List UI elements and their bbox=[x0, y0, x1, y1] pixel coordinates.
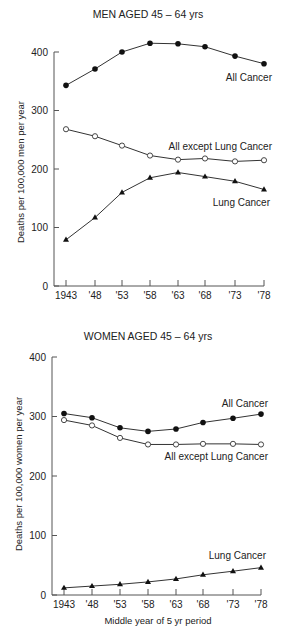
women-x-tick-label: '68 bbox=[196, 599, 209, 610]
filled-circle-marker-icon bbox=[202, 44, 208, 50]
women-label-lung-cancer: Lung Cancer bbox=[209, 550, 267, 561]
filled-circle-marker-icon bbox=[175, 41, 181, 47]
men-x-tick-label: '63 bbox=[171, 290, 184, 301]
open-circle-marker-icon bbox=[92, 134, 97, 139]
filled-triangle-marker-icon bbox=[63, 237, 69, 242]
men-chart-title: MEN AGED 45 – 64 yrs bbox=[93, 8, 203, 20]
women-y-tick-label: 300 bbox=[29, 411, 46, 422]
chart-canvas: MEN AGED 45 – 64 yrs Deaths per 100,000 … bbox=[0, 0, 283, 641]
open-circle-marker-icon bbox=[63, 127, 68, 132]
filled-circle-marker-icon bbox=[261, 61, 267, 67]
women-label-all-except-lung: All except Lung Cancer bbox=[165, 451, 269, 462]
women-y-axis-title: Deaths per 100,000 women per year bbox=[13, 397, 24, 551]
filled-circle-marker-icon bbox=[89, 415, 95, 421]
women-x-tick-label: '58 bbox=[141, 599, 154, 610]
filled-circle-marker-icon bbox=[147, 40, 153, 46]
men-x-tick-label: '68 bbox=[198, 290, 211, 301]
filled-circle-marker-icon bbox=[200, 420, 206, 426]
filled-triangle-marker-icon bbox=[258, 564, 264, 569]
open-circle-marker-icon bbox=[258, 442, 263, 447]
men-label-all-except-lung: All except Lung Cancer bbox=[169, 141, 273, 152]
men-y-tick-label: 300 bbox=[31, 105, 48, 116]
women-series-all-except-lung-cancer bbox=[61, 417, 263, 447]
men-y-tick-label: 400 bbox=[31, 47, 48, 58]
filled-circle-marker-icon bbox=[119, 49, 125, 55]
open-circle-marker-icon bbox=[232, 159, 237, 164]
men-x-tick-label: '73 bbox=[228, 290, 241, 301]
women-x-tick-label: '63 bbox=[169, 599, 182, 610]
open-circle-marker-icon bbox=[61, 417, 66, 422]
women-x-tick-label: 1943 bbox=[53, 599, 76, 610]
women-y-tick-label: 100 bbox=[29, 530, 46, 541]
filled-circle-marker-icon bbox=[61, 411, 67, 417]
open-circle-marker-icon bbox=[147, 153, 152, 158]
women-x-tick-label: '73 bbox=[226, 599, 239, 610]
filled-circle-marker-icon bbox=[258, 411, 264, 417]
women-chart-title: WOMEN AGED 45 – 64 yrs bbox=[84, 330, 212, 342]
women-line-lung-cancer bbox=[64, 568, 261, 588]
men-y-axis-title: Deaths per 100,000 men per year bbox=[15, 101, 26, 243]
men-x-tick-label: 1943 bbox=[55, 290, 78, 301]
women-y-tick-label: 400 bbox=[29, 352, 46, 363]
men-x-tick-label: '53 bbox=[115, 290, 128, 301]
men-x-tick-label: '58 bbox=[143, 290, 156, 301]
open-circle-marker-icon bbox=[173, 442, 178, 447]
filled-circle-marker-icon bbox=[173, 426, 179, 432]
women-y-tick-label: 0 bbox=[40, 590, 46, 601]
men-y-tick-label: 200 bbox=[31, 164, 48, 175]
open-circle-marker-icon bbox=[117, 435, 122, 440]
women-x-tick-label: '78 bbox=[254, 599, 267, 610]
men-y-tick-label: 0 bbox=[42, 281, 48, 292]
open-circle-marker-icon bbox=[230, 441, 235, 446]
open-circle-marker-icon bbox=[261, 158, 266, 163]
filled-circle-marker-icon bbox=[230, 415, 236, 421]
filled-circle-marker-icon bbox=[117, 425, 123, 431]
filled-circle-marker-icon bbox=[92, 66, 98, 72]
women-x-tick-label: '48 bbox=[85, 599, 98, 610]
open-circle-marker-icon bbox=[89, 423, 94, 428]
men-chart-panel: MEN AGED 45 – 64 yrs Deaths per 100,000 … bbox=[15, 8, 273, 301]
women-x-axis-title: Middle year of 5 yr period bbox=[104, 615, 211, 626]
men-y-tick-label: 100 bbox=[31, 222, 48, 233]
filled-circle-marker-icon bbox=[63, 83, 69, 89]
open-circle-marker-icon bbox=[175, 157, 180, 162]
men-x-tick-label: '78 bbox=[257, 290, 270, 301]
men-x-tick-label: '48 bbox=[88, 290, 101, 301]
women-chart-panel: WOMEN AGED 45 – 64 yrs Deaths per 100,00… bbox=[13, 330, 269, 626]
filled-circle-marker-icon bbox=[232, 53, 238, 59]
open-circle-marker-icon bbox=[119, 143, 124, 148]
women-y-tick-label: 200 bbox=[29, 471, 46, 482]
open-circle-marker-icon bbox=[145, 442, 150, 447]
women-x-tick-label: '53 bbox=[113, 599, 126, 610]
women-series-group bbox=[61, 411, 264, 590]
filled-triangle-marker-icon bbox=[175, 169, 181, 174]
women-label-all-cancer: All Cancer bbox=[222, 398, 269, 409]
open-circle-marker-icon bbox=[200, 441, 205, 446]
men-label-all-cancer: All Cancer bbox=[226, 72, 273, 83]
women-series-lung-cancer bbox=[61, 564, 264, 589]
men-label-lung-cancer: Lung Cancer bbox=[213, 197, 271, 208]
open-circle-marker-icon bbox=[202, 156, 207, 161]
figure: MEN AGED 45 – 64 yrs Deaths per 100,000 … bbox=[0, 0, 283, 641]
filled-circle-marker-icon bbox=[145, 429, 151, 435]
